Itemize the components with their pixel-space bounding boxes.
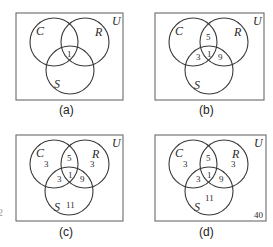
panel-caption: (a) xyxy=(59,103,74,117)
region-c-only: 3 xyxy=(183,159,188,169)
set-r-label: R xyxy=(94,25,103,39)
panel-a: C R S U 1 (a) xyxy=(16,13,123,117)
set-c-label: C xyxy=(36,146,45,160)
set-s-label: S xyxy=(194,200,200,214)
set-c-label: C xyxy=(175,24,184,38)
region-r-s: 9 xyxy=(219,174,224,184)
set-r-label: R xyxy=(233,25,242,39)
region-r-only: 3 xyxy=(231,159,236,169)
region-r-s: 9 xyxy=(80,174,85,184)
region-c-s: 3 xyxy=(196,52,201,62)
region-outside: 40 xyxy=(254,210,264,220)
region-c-s: 3 xyxy=(57,174,62,184)
panel-d: C R S U 3 3 11 5 3 9 1 40 (d) xyxy=(155,135,266,239)
region-r-only: 3 xyxy=(90,159,95,169)
set-s-label: S xyxy=(54,77,60,91)
region-c-r: 5 xyxy=(206,153,211,163)
region-c-only: 3 xyxy=(44,159,49,169)
panel-caption: (b) xyxy=(199,103,214,117)
set-c-label: C xyxy=(36,24,45,38)
set-r-circle xyxy=(61,140,109,188)
region-c-r-s: 1 xyxy=(68,170,73,180)
universe-label: U xyxy=(253,14,263,28)
universe-label: U xyxy=(112,136,122,150)
region-s-only: 11 xyxy=(66,200,75,210)
set-c-label: C xyxy=(175,146,184,160)
panel-c: C R S U 3 3 11 5 3 9 1 (c) xyxy=(16,135,123,239)
region-r-s: 9 xyxy=(218,52,223,62)
region-c-r-s: 1 xyxy=(207,170,212,180)
set-s-label: S xyxy=(54,200,60,214)
universe-label: U xyxy=(112,14,122,28)
panel-b: C R S U 5 3 9 1 (b) xyxy=(155,13,264,117)
panel-caption: (c) xyxy=(59,225,73,239)
region-c-r: 5 xyxy=(206,32,211,42)
set-s-label: S xyxy=(194,78,200,92)
region-c-r: 5 xyxy=(67,153,72,163)
cropped-edge-mark: 2 xyxy=(0,207,3,218)
region-c-r-s: 1 xyxy=(207,49,212,59)
region-s-only: 11 xyxy=(205,193,214,203)
panel-caption: (d) xyxy=(199,225,214,239)
venn-diagram-figure: C R S U 1 (a) C R S U 5 3 9 1 (b) C R S … xyxy=(0,0,273,247)
region-c-s: 3 xyxy=(196,174,201,184)
set-r-circle xyxy=(200,140,248,188)
region-c-r-s: 1 xyxy=(67,49,72,59)
universe-label: U xyxy=(254,136,264,150)
